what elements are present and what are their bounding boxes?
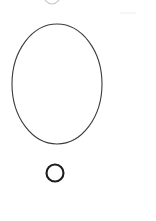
figure-svg: Hand-drawn outline shapes on white backg… [0,0,156,221]
figure-background [0,0,156,221]
figure-canvas: Hand-drawn outline shapes on white backg… [0,0,156,221]
